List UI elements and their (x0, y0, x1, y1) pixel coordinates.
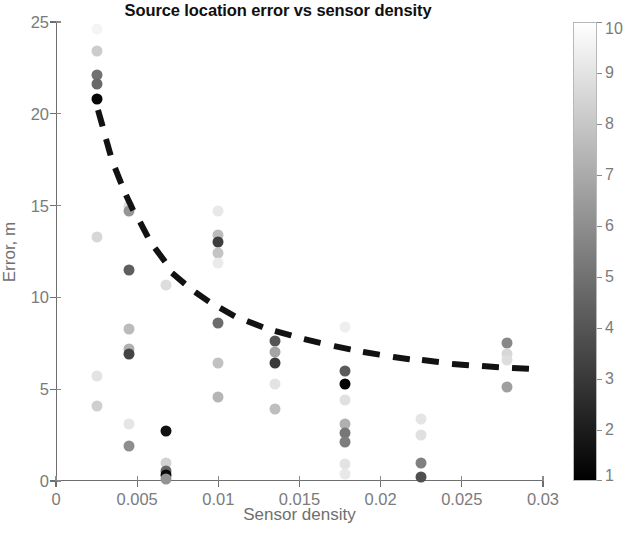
y-tick-inner (56, 205, 61, 206)
trendline-dash (137, 221, 150, 239)
x-tick-inner (542, 476, 543, 481)
trendline-dash (392, 354, 410, 362)
colorbar-tick-label: 5 (605, 268, 614, 286)
scatter-point (213, 391, 224, 402)
scatter-point (213, 358, 224, 369)
trendline-dash (170, 270, 187, 286)
scatter-point (416, 472, 427, 483)
scatter-point (270, 358, 281, 369)
x-tick (542, 481, 543, 487)
x-tick (299, 481, 300, 487)
x-tick (55, 481, 56, 487)
y-tick-inner (56, 113, 61, 114)
trendline-dash (363, 349, 381, 358)
colorbar-tick (597, 226, 602, 227)
x-tick-inner (218, 476, 219, 481)
scatter-point (339, 437, 350, 448)
chart-title: Source location error vs sensor density (0, 1, 556, 20)
scatter-point (502, 338, 513, 349)
y-tick-label: 5 (40, 380, 49, 399)
trendline-dash (104, 138, 114, 156)
y-tick-label: 10 (31, 288, 49, 307)
scatter-point (416, 430, 427, 441)
x-tick (137, 481, 138, 487)
scatter-point (213, 237, 224, 248)
trendline-dash (304, 336, 322, 346)
scatter-point (339, 378, 350, 389)
x-tick (218, 481, 219, 487)
scatter-point (91, 46, 102, 57)
scatter-point (91, 371, 102, 382)
colorbar-tick-label: 3 (605, 370, 614, 388)
scatter-point (161, 474, 172, 485)
colorbar-tick-label: 10 (605, 20, 623, 38)
colorbar-tick-label: 4 (605, 319, 614, 337)
chart-figure: Source location error vs sensor density … (0, 0, 626, 539)
trendline-dash (512, 365, 529, 372)
y-tick-inner (56, 389, 61, 390)
scatter-point (161, 279, 172, 290)
colorbar-tick (597, 480, 602, 481)
scatter-point (416, 457, 427, 468)
scatter-point (124, 349, 135, 360)
colorbar-tick-label: 9 (605, 64, 614, 82)
scatter-point (339, 365, 350, 376)
trendline-dash (333, 343, 351, 352)
trendline-dash (246, 318, 264, 330)
y-tick-inner (56, 21, 61, 22)
trendline-dash (95, 109, 105, 127)
scatter-point (124, 441, 135, 452)
colorbar-tick (597, 328, 602, 329)
plot-area: 0510152025 00.0050.010.0150.020.0250.03 … (56, 22, 543, 481)
x-tick-inner (137, 476, 138, 481)
y-tick-label: 20 (31, 104, 49, 123)
scatter-point (339, 468, 350, 479)
y-tick-label: 15 (31, 196, 49, 215)
scatter-point (213, 257, 224, 268)
scatter-point (502, 382, 513, 393)
scatter-point (270, 336, 281, 347)
scatter-point (124, 419, 135, 430)
x-tick (380, 481, 381, 487)
x-axis-label: Sensor density (56, 505, 543, 525)
x-tick-inner (461, 476, 462, 481)
trendline-dash (112, 166, 124, 184)
scatter-point (270, 347, 281, 358)
colorbar-tick-label: 7 (605, 166, 614, 184)
trendline-dash (452, 361, 469, 368)
y-tick-label: 0 (40, 472, 49, 491)
colorbar-tick (597, 73, 602, 74)
scatter-point (213, 318, 224, 329)
trendline-dash (219, 305, 237, 319)
x-tick-inner (380, 476, 381, 481)
x-tick (461, 481, 462, 487)
colorbar-tick-label: 1 (605, 467, 614, 485)
colorbar-tick (597, 175, 602, 176)
x-tick-inner (55, 476, 56, 481)
scatter-point (124, 264, 135, 275)
y-tick-inner (56, 297, 61, 298)
scatter-point (124, 323, 135, 334)
scatter-point (502, 354, 513, 365)
colorbar-tick-label: 2 (605, 421, 614, 439)
scatter-point (270, 378, 281, 389)
scatter-point (270, 404, 281, 415)
colorbar-tick (597, 430, 602, 431)
colorbar-tick (597, 124, 602, 125)
scatter-point (91, 231, 102, 242)
y-axis-label: Error, m (0, 221, 20, 281)
scatter-point (339, 321, 350, 332)
colorbar-tick (597, 379, 602, 380)
trendline-dash (482, 363, 499, 370)
trendline-dash (194, 289, 211, 304)
trendline-dash (422, 357, 440, 365)
scatter-point (416, 413, 427, 424)
colorbar-tick (597, 22, 602, 23)
colorbar: 12345678910 (573, 22, 597, 481)
y-tick-inner (56, 480, 61, 481)
x-tick-inner (299, 476, 300, 481)
scatter-point (91, 24, 102, 35)
colorbar-tick (597, 277, 602, 278)
colorbar-tick-label: 6 (605, 217, 614, 235)
scatter-point (91, 79, 102, 90)
